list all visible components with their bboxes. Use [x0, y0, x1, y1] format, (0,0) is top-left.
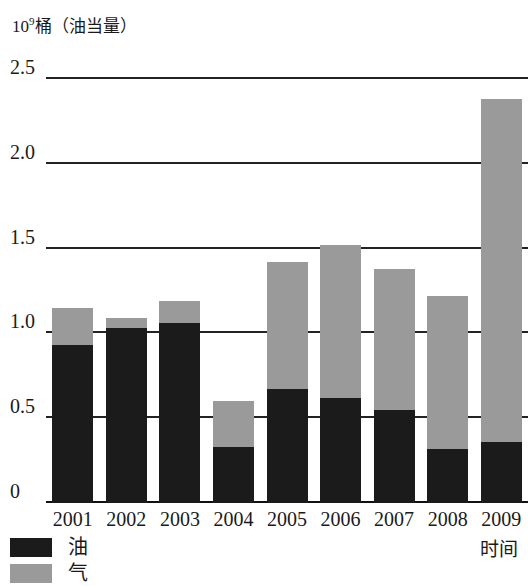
x-tick-label-2007: 2007	[367, 507, 421, 531]
bar-segment-oil-2004	[213, 447, 254, 503]
x-tick-label-2004: 2004	[207, 507, 261, 531]
bar-2007	[374, 79, 415, 503]
bar-segment-oil-2002	[106, 328, 147, 503]
legend-swatch-gas	[10, 564, 52, 583]
bar-segment-gas-2003	[159, 301, 200, 323]
x-tick-label-2001: 2001	[46, 507, 100, 531]
bar-segment-oil-2007	[374, 410, 415, 503]
bar-segment-gas-2002	[106, 318, 147, 328]
bar-segment-oil-2008	[427, 449, 468, 503]
legend-swatch-oil	[10, 538, 52, 557]
bar-segment-gas-2007	[374, 269, 415, 410]
legend-item-gas: 气	[10, 560, 88, 586]
x-axis-tick-labels: 200120022003200420052006200720082009	[46, 507, 528, 535]
bar-2004	[213, 79, 254, 503]
bar-segment-gas-2006	[320, 245, 361, 398]
bar-segment-oil-2003	[159, 323, 200, 503]
bar-segment-oil-2001	[52, 345, 93, 503]
legend-label-gas: 气	[68, 563, 88, 583]
bar-segment-gas-2008	[427, 296, 468, 449]
x-tick-label-2002: 2002	[100, 507, 154, 531]
chart-legend: 油 气	[10, 534, 88, 586]
bar-segment-gas-2004	[213, 401, 254, 447]
y-axis-unit-rest: 桶（油当量）	[35, 17, 137, 36]
x-tick-label-2003: 2003	[153, 507, 207, 531]
bar-segment-oil-2006	[320, 398, 361, 503]
x-tick-label-2008: 2008	[421, 507, 475, 531]
legend-label-oil: 油	[68, 537, 88, 557]
bar-2006	[320, 79, 361, 503]
bar-2009	[481, 79, 522, 503]
x-axis-title: 时间	[480, 540, 518, 559]
y-axis-unit-caption: 109桶（油当量）	[12, 18, 137, 35]
y-tick-label-2.5: 2.5	[10, 57, 56, 77]
bar-2003	[159, 79, 200, 503]
bar-segment-gas-2001	[52, 308, 93, 345]
x-tick-label-2009: 2009	[474, 507, 528, 531]
bar-2001	[52, 79, 93, 503]
bar-segment-gas-2005	[267, 262, 308, 389]
bar-2008	[427, 79, 468, 503]
bar-2002	[106, 79, 147, 503]
bar-segment-oil-2009	[481, 442, 522, 503]
bar-2005	[267, 79, 308, 503]
x-tick-label-2006: 2006	[314, 507, 368, 531]
plot-area	[46, 79, 528, 503]
bar-segment-oil-2005	[267, 389, 308, 503]
x-tick-label-2005: 2005	[260, 507, 314, 531]
y-axis-unit-mantissa: 10	[12, 17, 29, 36]
stacked-bar-chart-figure: 109桶（油当量） 00.51.01.52.02.5 2001200220032…	[0, 0, 528, 586]
bar-segment-gas-2009	[481, 99, 522, 442]
legend-item-oil: 油	[10, 534, 88, 560]
